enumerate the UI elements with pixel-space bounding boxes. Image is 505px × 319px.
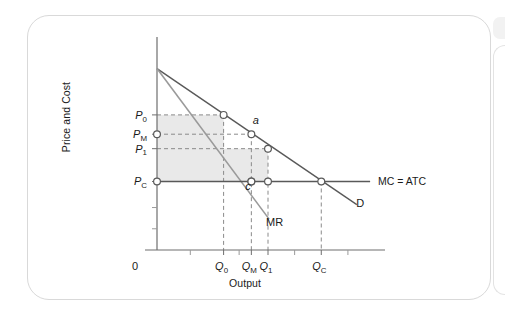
point-P1-on-demand [265,145,272,152]
point-Q1-on-MC [265,178,272,185]
y-tick-label-PC: PC [134,175,147,190]
chart-canvas: Q0QMQ1QCP0PMP1PC0DMRMC = ATCac [27,15,491,300]
annotation-point-c-label: c [245,180,251,192]
point-PC-on-axis [154,178,161,185]
side-panel-tab [493,17,505,39]
x-tick-label-QC: QC [312,260,327,275]
y-axis-title: Price and Cost [60,57,72,177]
side-panel-sheet [493,45,505,295]
x-tick-label-Q0: Q0 [215,260,229,275]
point-PM-on-axis [154,131,161,138]
point-a [248,131,255,138]
annotation-mc-atc-label: MC = ATC [378,175,426,187]
annotation-mr-label: MR [266,216,283,228]
x-tick-label-QM: QM [242,260,257,275]
point-QC-equilibrium [318,178,325,185]
point-P0-on-demand [220,112,227,119]
screenshot-root: Q0QMQ1QCP0PMP1PC0DMRMC = ATCac Price and… [0,0,505,319]
y-tick-label-P1: P1 [135,143,147,158]
y-tick-label-P0: P0 [135,109,147,124]
annotation-demand-label: D [356,197,364,209]
x-tick-label-Q1: Q1 [260,260,273,275]
annotation-point-a-label: a [253,114,259,126]
economics-figure: Q0QMQ1QCP0PMP1PC0DMRMC = ATCac Price and… [27,15,491,300]
x-axis-title: Output [185,277,305,289]
origin-label: 0 [132,260,138,272]
y-tick-label-PM: PM [133,128,147,143]
